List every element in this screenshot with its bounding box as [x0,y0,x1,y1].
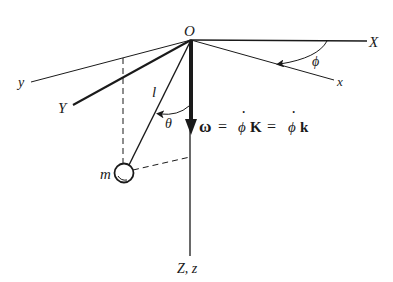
fixed-x-axis [191,40,367,41]
label-l: l [152,84,156,100]
eq-k: k [300,119,309,135]
eq-phi-1: ϕ [238,119,246,135]
eq-phi-2: ϕ [288,119,296,135]
label-X: X [368,34,379,50]
label-theta: θ [165,116,172,131]
label-origin: O [184,23,195,39]
eq-phi-2-dot: · [291,104,296,121]
pendulum-rod [129,40,191,165]
theta-angle-arc [160,106,189,114]
label-Z-z: Z, z [177,261,198,276]
eq-K: K [250,119,262,135]
pendulum-diagram: X x ϕ y Y l θ O m ω = ϕ · K = ϕ · k Z, z [0,0,393,282]
label-phi: ϕ [312,54,319,69]
fixed-y-axis [73,40,191,105]
projection-dashed-horizontal [133,157,190,170]
eq-equals-1: = [218,118,227,135]
omega-arrowhead [185,119,197,135]
rotating-y-axis [31,40,191,82]
label-x: x [336,74,343,89]
eq-omega: ω [199,117,211,136]
eq-phi-1-dot: · [241,104,246,121]
label-Y: Y [58,100,68,116]
label-m: m [100,166,111,182]
label-y: y [16,75,25,90]
phi-angle-arc [280,41,327,64]
eq-equals-2: = [267,118,276,135]
angular-velocity-equation: ω = ϕ · K = ϕ · k [199,104,309,136]
